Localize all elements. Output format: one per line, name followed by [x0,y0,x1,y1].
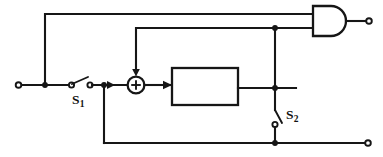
switch-s1-label: S1 [72,93,84,107]
switch-s1-label-subscript: 1 [80,99,85,109]
junction-dot-bottom-rail [272,140,278,146]
block-diagram-canvas: S1 S2 [0,0,383,157]
switch-s2-label-text: S [286,107,294,122]
switch-s1-blade[interactable] [72,77,88,84]
switch-s2-label-subscript: 2 [294,114,299,124]
junction-dot-feedback-branch [101,82,107,88]
switch-s1-label-text: S [72,92,80,107]
arrowhead-into-block [163,81,172,90]
junction-dot-input-branch [42,82,48,88]
input-terminal[interactable] [16,82,22,88]
process-block [172,68,238,105]
circuit-schematic [0,0,383,157]
gate-output-terminal[interactable] [366,18,372,24]
and-gate [313,6,346,36]
wire-summer-riser-second-rail [136,28,313,73]
junction-dot-upper-bus [272,25,278,31]
arrowhead-into-summer-top [132,69,140,77]
arrowhead-into-summer-left [107,81,115,89]
bottom-output-terminal[interactable] [365,140,371,146]
switch-s2-blade[interactable] [275,110,282,123]
switch-s2-label: S2 [286,108,298,122]
junction-dot-block-output [272,85,278,91]
